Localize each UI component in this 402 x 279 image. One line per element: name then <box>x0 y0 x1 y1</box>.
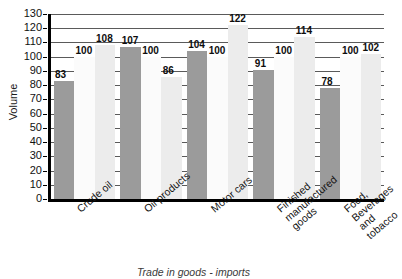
y-tick-label: 90 <box>2 65 42 76</box>
bar-value-label: 100 <box>342 46 359 56</box>
y-tick-mark <box>43 156 47 157</box>
y-tick-mark <box>43 185 47 186</box>
bar-value-label: 91 <box>255 59 266 69</box>
bar-value-label: 83 <box>55 70 66 80</box>
bar <box>207 57 228 199</box>
y-tick-label: 110 <box>2 36 42 47</box>
bar-value-label: 102 <box>362 43 379 53</box>
bar-value-label: 122 <box>229 14 246 24</box>
y-tick-mark <box>43 99 47 100</box>
bar <box>274 57 295 199</box>
bar-value-label: 78 <box>321 77 332 87</box>
y-tick-mark <box>43 142 47 143</box>
bar-value-label: 108 <box>96 34 113 44</box>
bar <box>74 57 95 199</box>
bar-value-label: 86 <box>163 66 174 76</box>
y-tick-mark <box>43 85 47 86</box>
y-tick-label: 80 <box>2 79 42 90</box>
y-tick-mark <box>43 28 47 29</box>
bar-value-label: 114 <box>296 26 312 36</box>
y-tick-label: 100 <box>2 51 42 62</box>
bar <box>120 47 141 199</box>
y-tick-label: 0 <box>2 193 42 204</box>
bar <box>141 57 162 199</box>
y-tick-label: 30 <box>2 150 42 161</box>
y-tick-label: 120 <box>2 22 42 33</box>
grid-line <box>51 14 384 15</box>
y-tick-mark <box>43 199 47 200</box>
bar <box>54 81 75 199</box>
bar-value-label: 100 <box>142 46 159 56</box>
plot-inner: 8310010810710086104100122911001147810010… <box>51 14 384 199</box>
y-tick-label: 10 <box>2 179 42 190</box>
bar-value-label: 100 <box>209 46 226 56</box>
y-tick-mark <box>43 42 47 43</box>
y-tick-mark <box>43 14 47 15</box>
y-tick-label: 40 <box>2 136 42 147</box>
bar <box>253 70 274 200</box>
y-tick-label: 60 <box>2 108 42 119</box>
chart-caption: Trade in goods - imports <box>0 266 387 278</box>
y-tick-label: 70 <box>2 93 42 104</box>
plot-area: 8310010810710086104100122911001147810010… <box>48 14 384 202</box>
grid-line <box>51 28 384 29</box>
bar-value-label: 100 <box>76 46 93 56</box>
bar-value-label: 100 <box>275 46 292 56</box>
y-tick-mark <box>43 128 47 129</box>
bar <box>340 57 361 199</box>
y-tick-label: 50 <box>2 122 42 133</box>
y-axis-ticks: 0102030405060708090100110120130 <box>0 14 44 199</box>
y-tick-label: 130 <box>2 8 42 19</box>
bar-value-label: 104 <box>188 40 205 50</box>
y-tick-mark <box>43 114 47 115</box>
y-tick-label: 20 <box>2 165 42 176</box>
y-tick-mark <box>43 71 47 72</box>
bar <box>95 45 116 199</box>
y-tick-mark <box>43 57 47 58</box>
bar-value-label: 107 <box>122 36 139 46</box>
y-tick-mark <box>43 171 47 172</box>
